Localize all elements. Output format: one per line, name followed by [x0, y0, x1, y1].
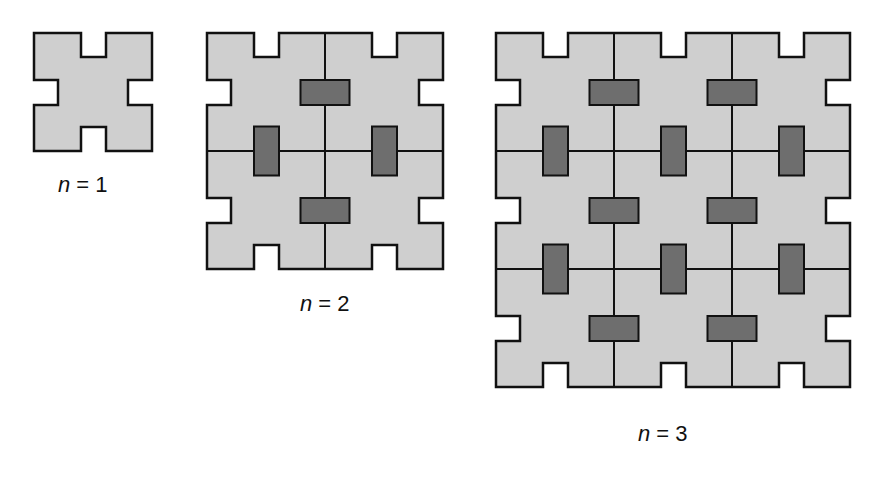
filler-block [708, 80, 757, 105]
filler-block [372, 127, 397, 176]
label-variable: n [638, 421, 650, 446]
filler-block [590, 198, 639, 223]
filler-block [543, 245, 568, 294]
filler-block [708, 198, 757, 223]
tiling-diagram [0, 0, 880, 478]
label-variable: n [58, 172, 70, 197]
tile-outline [496, 33, 850, 387]
label-value: = 1 [70, 172, 107, 197]
filler-block [779, 245, 804, 294]
filler-block [543, 127, 568, 176]
tile-outline [34, 33, 152, 151]
filler-block [301, 198, 350, 223]
label-n1: n = 1 [58, 172, 108, 198]
label-n3: n = 3 [638, 421, 688, 447]
label-value: = 3 [650, 421, 687, 446]
filler-block [590, 80, 639, 105]
filler-block [254, 127, 279, 176]
filler-block [661, 127, 686, 176]
figure-n2 [207, 33, 443, 269]
label-variable: n [300, 291, 312, 316]
figure-n1 [34, 33, 152, 151]
filler-block [708, 316, 757, 341]
label-value: = 2 [312, 291, 349, 316]
filler-block [779, 127, 804, 176]
filler-block [301, 80, 350, 105]
filler-block [661, 245, 686, 294]
figure-n3 [496, 33, 850, 387]
label-n2: n = 2 [300, 291, 350, 317]
filler-block [590, 316, 639, 341]
